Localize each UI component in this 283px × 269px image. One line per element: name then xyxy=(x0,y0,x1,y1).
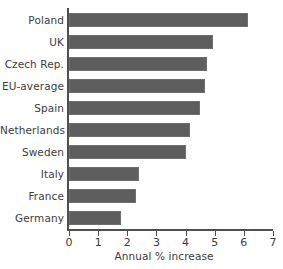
x-axis-tick-label: 3 xyxy=(146,236,166,249)
bar-row xyxy=(69,75,273,97)
category-label: Sweden xyxy=(0,141,64,163)
category-axis-labels: PolandUKCzech Rep.EU-averageSpainNetherl… xyxy=(0,9,64,229)
bar xyxy=(69,167,139,181)
bar-row xyxy=(69,185,273,207)
x-axis-tick-label: 4 xyxy=(176,236,196,249)
bar xyxy=(69,123,190,137)
x-axis-tick-label: 1 xyxy=(88,236,108,249)
category-label: UK xyxy=(0,31,64,53)
x-axis-tick-label: 7 xyxy=(263,236,283,249)
bar xyxy=(69,13,248,27)
x-axis-title: Annual % increase xyxy=(0,250,283,262)
bar xyxy=(69,145,186,159)
x-axis-tick-label: 0 xyxy=(59,236,79,249)
bar xyxy=(69,57,207,71)
category-label: Czech Rep. xyxy=(0,53,64,75)
bar xyxy=(69,189,136,203)
bar-row xyxy=(69,163,273,185)
bar-row xyxy=(69,97,273,119)
category-label: Germany xyxy=(0,207,64,229)
x-axis-tick-label: 5 xyxy=(205,236,225,249)
bar-row xyxy=(69,31,273,53)
category-label: Poland xyxy=(0,9,64,31)
category-label: Spain xyxy=(0,97,64,119)
bar-row xyxy=(69,119,273,141)
category-label: Netherlands xyxy=(0,119,64,141)
category-label: EU-average xyxy=(0,75,64,97)
category-label: France xyxy=(0,185,64,207)
bar-row xyxy=(69,53,273,75)
bar-chart: PolandUKCzech Rep.EU-averageSpainNetherl… xyxy=(0,0,283,269)
bar-row xyxy=(69,207,273,229)
bar-row xyxy=(69,9,273,31)
bar-row xyxy=(69,141,273,163)
x-axis-tick-label: 2 xyxy=(117,236,137,249)
bar xyxy=(69,79,205,93)
bar xyxy=(69,101,200,115)
bar xyxy=(69,35,213,49)
category-label: Italy xyxy=(0,163,64,185)
x-axis-tick-label: 6 xyxy=(234,236,254,249)
plot-area xyxy=(69,9,273,229)
bar xyxy=(69,211,121,225)
